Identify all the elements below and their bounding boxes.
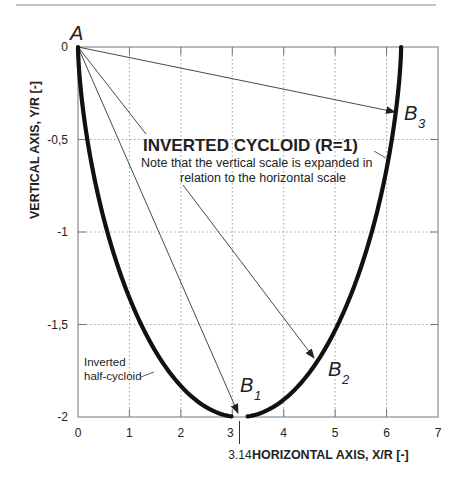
arrow-a-to-b3 <box>78 47 395 112</box>
cycloid-chart: 0 1 2 3 4 5 6 7 3.14 0 -0,5 -1 -1,5 -2 H… <box>0 0 468 492</box>
svg-text:B: B <box>240 374 253 396</box>
chart-note-line1: Note that the vertical scale is expanded… <box>141 156 372 170</box>
annotation-pointer <box>141 372 154 377</box>
annotation-line1: Inverted <box>84 356 126 368</box>
arrow-a-to-b2-start <box>78 47 146 134</box>
svg-text:1: 1 <box>254 388 261 403</box>
point-a-label: A <box>69 22 83 44</box>
x-tick-7: 7 <box>435 426 442 440</box>
x-tick-5: 5 <box>332 426 339 440</box>
svg-text:2: 2 <box>341 372 350 387</box>
svg-text:B: B <box>404 102 417 124</box>
y-tick-neg0-5: -0,5 <box>47 133 68 147</box>
x-tick-labels: 0 1 2 3 4 5 6 7 <box>75 426 442 440</box>
y-axis-title: VERTICAL AXIS, Y/R [-] <box>28 81 42 219</box>
x-axis-title: HORIZONTAL AXIS, X/R [-] <box>252 448 409 462</box>
point-b1-label: B 1 <box>240 374 261 403</box>
x-tick-0: 0 <box>75 426 82 440</box>
y-tick-neg1-5: -1,5 <box>47 318 68 332</box>
x-tick-3: 3 <box>227 426 234 440</box>
annotation-line2: half-cycloid <box>84 370 142 382</box>
svg-text:B: B <box>328 358 341 380</box>
grid-lines <box>78 47 438 417</box>
x-tick-2: 2 <box>178 426 185 440</box>
chart-note-line2: relation to the horizontal scale <box>180 171 346 185</box>
pi-marker-label: 3.14 <box>228 448 252 462</box>
y-tick-neg2: -2 <box>57 410 68 424</box>
point-b2-label: B 2 <box>328 358 350 387</box>
y-tick-0: 0 <box>61 40 68 54</box>
chart-title: INVERTED CYCLOID (R=1) <box>143 136 358 155</box>
x-tick-6: 6 <box>383 426 390 440</box>
y-tick-labels: 0 -0,5 -1 -1,5 -2 <box>47 40 68 424</box>
point-b3-label: B 3 <box>404 102 426 131</box>
y-tick-neg1: -1 <box>57 225 68 239</box>
svg-text:3: 3 <box>418 116 426 131</box>
title-pointer <box>374 151 386 158</box>
x-tick-1: 1 <box>126 426 133 440</box>
x-tick-4: 4 <box>280 426 287 440</box>
